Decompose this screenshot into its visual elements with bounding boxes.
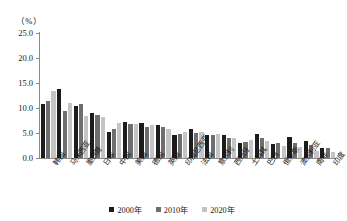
legend-label: 2020年 bbox=[210, 203, 234, 215]
x-axis-labels: 韩国马来西亚墨西哥日本中国美国德国英国印度尼西亚法国意大利西班牙土耳其巴西俄罗斯… bbox=[40, 160, 335, 206]
y-axis-tick-label: 15.0 bbox=[2, 78, 33, 88]
legend-label: 2010年 bbox=[164, 203, 188, 215]
bar bbox=[51, 91, 55, 159]
y-axis-tick-label: 0.0 bbox=[2, 153, 33, 163]
bar bbox=[41, 104, 45, 158]
y-axis-tick-label: 25.0 bbox=[2, 28, 33, 38]
legend-item: 2000年 bbox=[109, 203, 141, 215]
bar-group bbox=[319, 33, 335, 158]
chart-legend: 2000年2010年2020年 bbox=[0, 203, 344, 215]
bar-group bbox=[172, 33, 188, 158]
y-axis-tick bbox=[36, 158, 40, 159]
bar bbox=[63, 111, 67, 159]
legend-swatch bbox=[156, 207, 161, 212]
bar bbox=[46, 101, 50, 159]
bar-group bbox=[106, 33, 122, 158]
bar-group bbox=[287, 33, 303, 158]
legend-item: 2010年 bbox=[156, 203, 188, 215]
legend-swatch bbox=[202, 207, 207, 212]
y-axis-tick-label: 5.0 bbox=[2, 128, 33, 138]
legend-label: 2000年 bbox=[117, 203, 141, 215]
bar-group bbox=[40, 33, 56, 158]
y-axis-tick-label: 10.0 bbox=[2, 103, 33, 113]
bar-group bbox=[237, 33, 253, 158]
bar-group bbox=[56, 33, 72, 158]
bar-group bbox=[122, 33, 138, 158]
legend-swatch bbox=[109, 207, 114, 212]
bar-group bbox=[254, 33, 270, 158]
bar bbox=[68, 103, 72, 159]
bar bbox=[57, 89, 61, 159]
y-axis-tick-label: 20.0 bbox=[2, 53, 33, 63]
bar-group bbox=[89, 33, 105, 158]
bar-group bbox=[155, 33, 171, 158]
bar-group bbox=[221, 33, 237, 158]
y-axis-unit-label: （%） bbox=[16, 14, 42, 26]
legend-item: 2020年 bbox=[202, 203, 234, 215]
bar-group bbox=[270, 33, 286, 158]
bar-group bbox=[139, 33, 155, 158]
